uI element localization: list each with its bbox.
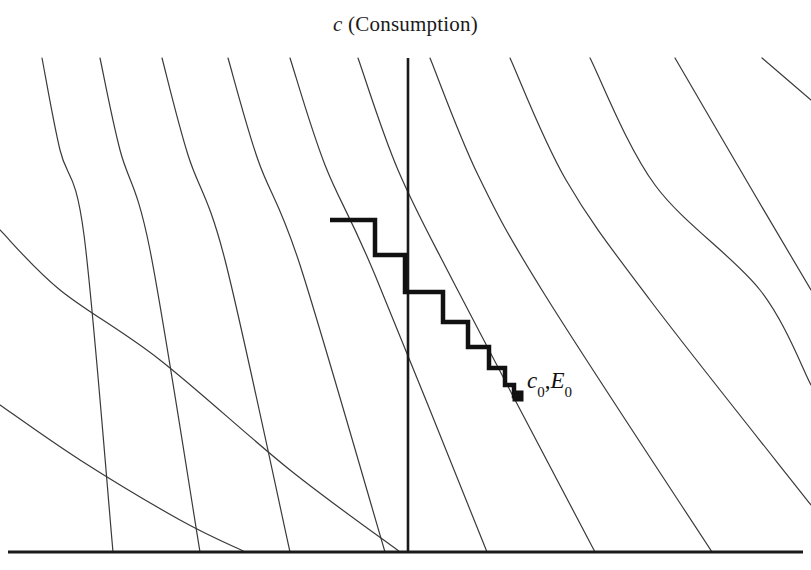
chart-canvas [0,0,811,570]
indifference-curve [762,58,811,100]
equilibrium-point-marker [513,391,524,402]
indifference-curve [162,58,290,552]
indifference-curve [430,58,712,552]
indifference-curve [228,58,385,552]
indifference-curve [100,58,200,552]
indifference-curve [590,58,811,385]
indifference-curve [675,58,811,290]
equilibrium-subscript-c: 0 [537,384,545,400]
equilibrium-variable-c: c [527,368,537,393]
indifference-curve [358,58,595,552]
indifference-curves-group [0,58,811,552]
indifference-curve [42,58,113,552]
indifference-curve [290,58,487,552]
equilibrium-point-label: c0,E0 [527,368,572,398]
staircase-path [330,220,520,396]
indifference-curve [0,405,245,552]
indifference-curve [510,58,811,505]
indifference-curve-figure: c (Consumption) c0,E0 [0,0,811,570]
equilibrium-subscript-e: 0 [565,384,573,400]
indifference-curve [0,230,400,552]
equilibrium-variable-e: E [550,368,564,393]
